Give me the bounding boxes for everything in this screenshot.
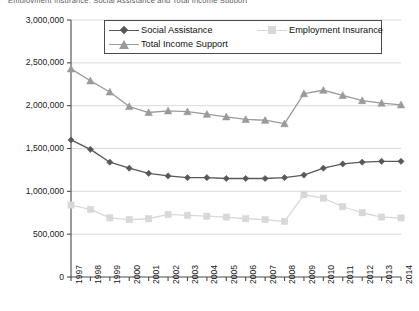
data-point: [378, 158, 384, 164]
data-point: [184, 212, 190, 218]
x-axis-tick-label: 2003: [191, 265, 200, 284]
data-point: [320, 195, 326, 201]
data-point: [165, 211, 171, 217]
legend-row: Social AssistanceEmployment Insurance: [109, 23, 377, 37]
x-axis-tick-label: 2008: [288, 265, 297, 284]
data-point: [126, 217, 132, 223]
legend-item-label: Social Assistance: [141, 25, 213, 35]
data-point: [359, 210, 365, 216]
data-point: [106, 88, 113, 95]
data-point: [67, 65, 74, 72]
data-point: [223, 175, 229, 181]
series-line: [71, 195, 401, 222]
data-point: [320, 165, 326, 171]
data-point: [243, 216, 249, 222]
x-axis-tick-label: 2000: [133, 265, 142, 284]
data-point: [126, 165, 132, 171]
chart-figure: Employment Insurance, Social Assistance …: [0, 0, 419, 311]
diamond-legend-marker-icon: [109, 24, 139, 36]
data-point: [107, 215, 113, 221]
y-axis-tick-label: 3,000,000: [0, 16, 64, 25]
data-point: [87, 206, 93, 212]
legend-item: Total Income Support: [109, 38, 228, 50]
data-point: [340, 204, 346, 210]
data-point: [378, 214, 384, 220]
x-axis-tick-label: 2006: [249, 265, 258, 284]
legend-row: Total Income Support: [109, 37, 377, 51]
x-axis-tick-label: 2010: [327, 265, 336, 284]
data-point: [340, 161, 346, 167]
data-point: [87, 77, 94, 84]
data-point: [262, 217, 268, 223]
series-line: [71, 140, 401, 179]
data-point: [398, 158, 404, 164]
y-axis-tick-label: 1,500,000: [0, 144, 64, 153]
data-point: [281, 175, 287, 181]
x-axis-tick-label: 2013: [385, 265, 394, 284]
data-point: [204, 213, 210, 219]
y-axis-tick-label: 1,000,000: [0, 187, 64, 196]
x-axis-tick-label: 2011: [346, 266, 355, 284]
data-point: [184, 175, 190, 181]
data-point: [301, 172, 307, 178]
legend-item-label: Employment Insurance: [289, 25, 383, 35]
data-point: [301, 192, 307, 198]
data-point: [165, 173, 171, 179]
legend-item: Employment Insurance: [257, 24, 383, 36]
x-axis-tick-label: 2014: [405, 265, 414, 284]
data-point: [359, 159, 365, 165]
chart-legend: Social AssistanceEmployment InsuranceTot…: [104, 20, 382, 54]
data-point: [204, 175, 210, 181]
x-axis-tick-label: 2002: [172, 265, 181, 284]
y-axis-tick-label: 2,000,000: [0, 101, 64, 110]
data-point: [146, 216, 152, 222]
y-axis-tick-label: 2,500,000: [0, 58, 64, 67]
data-point: [320, 87, 327, 94]
data-point: [146, 170, 152, 176]
x-axis-tick-label: 2004: [210, 265, 219, 284]
x-axis-tick-label: 2007: [269, 265, 278, 284]
data-point: [398, 215, 404, 221]
x-axis-tick-label: 2001: [152, 265, 161, 284]
y-axis-tick-label: 500,000: [0, 230, 64, 239]
data-point: [68, 202, 74, 208]
data-point: [223, 214, 229, 220]
data-point: [68, 137, 74, 143]
legend-item: Social Assistance: [109, 24, 257, 36]
x-axis-tick-label: 2005: [230, 265, 239, 284]
triangle-legend-marker-icon: [109, 38, 139, 50]
x-axis-tick-label: 1998: [94, 265, 103, 284]
x-axis-tick-label: 1997: [75, 265, 84, 284]
data-point: [243, 175, 249, 181]
y-axis-tick-label: 0: [0, 273, 64, 282]
data-point: [281, 218, 287, 224]
square-legend-marker-icon: [257, 24, 287, 36]
x-axis-tick-label: 2009: [308, 265, 317, 284]
data-point: [262, 175, 268, 181]
legend-item-label: Total Income Support: [141, 39, 228, 49]
x-axis-tick-label: 1999: [113, 265, 122, 284]
x-axis-tick-label: 2012: [366, 265, 375, 284]
series-line: [71, 69, 401, 124]
